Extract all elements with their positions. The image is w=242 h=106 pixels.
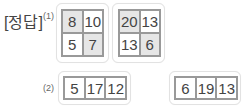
row-cell: 13 — [216, 77, 237, 99]
part1-grid-1: 8 10 5 7 — [61, 9, 104, 57]
part1-grid-2: 20 13 13 6 — [118, 9, 161, 57]
row-cell: 5 — [64, 77, 85, 99]
part1-marker: (1) — [43, 11, 54, 21]
grid-cell: 13 — [140, 10, 161, 33]
part2-row-2: 6 19 13 — [174, 76, 238, 100]
grid-cell: 6 — [140, 33, 161, 56]
grid-cell: 7 — [83, 33, 104, 56]
grid-cell: 13 — [119, 33, 140, 56]
row-cell: 17 — [85, 77, 106, 99]
grid-cell: 10 — [83, 10, 104, 33]
row-cell: 19 — [196, 77, 217, 99]
row-cell: 12 — [105, 77, 126, 99]
answer-label: [정답] — [4, 9, 43, 33]
part2-marker: (2) — [43, 83, 54, 93]
grid-cell: 20 — [119, 10, 140, 33]
grid-cell: 8 — [62, 10, 83, 33]
grid-cell: 5 — [62, 33, 83, 56]
row-cell: 6 — [175, 77, 196, 99]
part2-row-1: 5 17 12 — [63, 76, 127, 100]
